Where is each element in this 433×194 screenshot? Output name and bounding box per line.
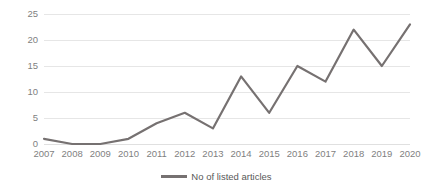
x-tick-label: 2016: [287, 148, 308, 159]
y-tick-label: 5: [0, 113, 38, 123]
x-tick-label: 2007: [33, 148, 54, 159]
y-tick-label: 20: [0, 35, 38, 45]
legend-entry-label: No of listed articles: [191, 172, 271, 182]
plot-area: [44, 14, 410, 144]
x-tick-label: 2019: [371, 148, 392, 159]
legend-line-marker-icon: [161, 175, 187, 178]
x-tick-label: 2008: [62, 148, 83, 159]
x-tick-label: 2009: [90, 148, 111, 159]
series-line: [44, 24, 410, 144]
x-tick-label: 2018: [343, 148, 364, 159]
y-tick-label: 25: [0, 9, 38, 19]
x-tick-label: 2010: [118, 148, 139, 159]
y-axis: 0510152025: [0, 14, 38, 144]
series-no-of-listed-articles: [44, 14, 410, 144]
y-tick-label: 15: [0, 61, 38, 71]
x-tick-label: 2011: [146, 148, 166, 159]
chart-legend: No of listed articles: [0, 172, 433, 182]
x-tick-label: 2013: [202, 148, 223, 159]
line-chart: 0510152025 20072008200920102011201220132…: [0, 0, 433, 194]
x-tick-label: 2012: [174, 148, 195, 159]
x-tick-label: 2020: [399, 148, 420, 159]
x-tick-label: 2014: [230, 148, 251, 159]
x-axis: 2007200820092010201120122013201420152016…: [44, 148, 410, 162]
y-tick-label: 10: [0, 87, 38, 97]
y-tick-label: 0: [0, 139, 38, 149]
x-tick-label: 2015: [259, 148, 280, 159]
x-tick-label: 2017: [315, 148, 336, 159]
